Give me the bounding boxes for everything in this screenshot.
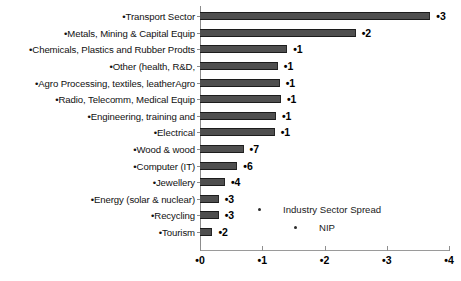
chart-legend: Industry Sector Spread NIP <box>258 200 381 236</box>
bar <box>200 29 356 37</box>
x-tick-mark <box>449 246 450 251</box>
bar-row: •Agro Processing, textiles, leatherAgro•… <box>200 74 449 91</box>
x-tick-mark <box>325 246 326 251</box>
bar <box>200 12 430 20</box>
bar-row: •Engineering, training and•1 <box>200 108 449 125</box>
bar-row: •Transport Sector•3 <box>200 8 449 25</box>
x-axis-ticks: •0•1•2•3•4 <box>200 250 450 276</box>
category-label: •Metals, Mining & Capital Equip <box>64 27 195 38</box>
bar <box>200 228 212 236</box>
bar-row: •Other (health, R&D,•1 <box>200 58 449 75</box>
bar <box>200 162 237 170</box>
legend-dot-icon <box>258 208 261 211</box>
x-tick-mark <box>200 246 201 251</box>
bar-value-label: •3 <box>225 209 235 221</box>
category-label: •Energy (solar & nuclear) <box>91 193 195 204</box>
bar-row: •Wood & wood•7 <box>200 141 449 158</box>
category-label: •Electrical <box>154 127 195 138</box>
bar-value-label: •1 <box>281 126 291 138</box>
category-label: •Jewellery <box>153 177 195 188</box>
category-label: •Recycling <box>151 210 195 221</box>
category-label: •Other (health, R&D, <box>109 61 195 72</box>
bar <box>200 62 278 70</box>
category-label: •Radio, Telecomm, Medical Equip <box>55 94 195 105</box>
bar-row: •Metals, Mining & Capital Equip•2 <box>200 25 449 42</box>
bar-value-label: •1 <box>293 43 303 55</box>
bar <box>200 45 287 53</box>
legend-label: Industry Sector Spread <box>283 204 381 215</box>
x-tick-label: •4 <box>444 254 454 266</box>
bar-row: •Jewellery•4 <box>200 174 449 191</box>
category-label: •Transport Sector <box>122 11 195 22</box>
category-label: •Engineering, training and <box>88 110 195 121</box>
legend-item-nip: NIP <box>258 218 381 236</box>
x-tick-label: •0 <box>195 254 205 266</box>
bar-value-label: •3 <box>225 193 235 205</box>
bar <box>200 79 280 87</box>
bar-row: •Electrical•1 <box>200 124 449 141</box>
bar-value-label: •1 <box>286 77 296 89</box>
x-tick-mark <box>262 246 263 251</box>
bar-row: •Computer (IT)•6 <box>200 157 449 174</box>
industry-sector-spread-bar-chart: •Transport Sector•3•Metals, Mining & Cap… <box>0 0 461 281</box>
bar-value-label: •2 <box>362 27 372 39</box>
x-tick-label: •1 <box>257 254 267 266</box>
category-label: •Agro Processing, textiles, leatherAgro <box>35 77 195 88</box>
bar-row: •Chemicals, Plastics and Rubber Prodts•1 <box>200 41 449 58</box>
category-label: •Computer (IT) <box>133 160 195 171</box>
bar-value-label: •2 <box>218 226 228 238</box>
bar <box>200 195 219 203</box>
bar-value-label: •6 <box>243 160 253 172</box>
bar-value-label: •1 <box>284 60 294 72</box>
category-label: •Wood & wood <box>133 144 195 155</box>
legend-item-industry-sector-spread: Industry Sector Spread <box>258 200 381 218</box>
bar <box>200 128 275 136</box>
bar <box>200 95 281 103</box>
bar-row: •Radio, Telecomm, Medical Equip•1 <box>200 91 449 108</box>
x-tick-mark <box>387 246 388 251</box>
bar <box>200 211 219 219</box>
x-tick-label: •3 <box>382 254 392 266</box>
category-label: •Chemicals, Plastics and Rubber Prodts <box>29 44 195 55</box>
bar-value-label: •3 <box>436 10 446 22</box>
bar <box>200 112 276 120</box>
bar-value-label: •1 <box>287 93 297 105</box>
category-label: •Tourism <box>159 227 195 238</box>
bar <box>200 145 244 153</box>
legend-dot-icon <box>294 226 297 229</box>
bar-value-label: •7 <box>250 143 260 155</box>
x-tick-label: •2 <box>320 254 330 266</box>
bar-value-label: •1 <box>282 110 292 122</box>
legend-label: NIP <box>319 222 335 233</box>
bar-value-label: •4 <box>231 176 241 188</box>
bar <box>200 178 225 186</box>
